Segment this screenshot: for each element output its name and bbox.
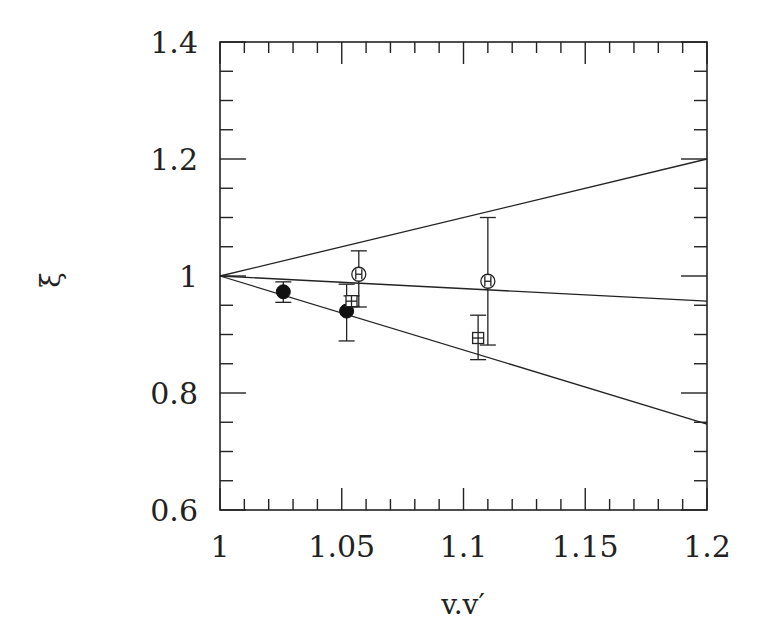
axis-ticks: [220, 42, 707, 510]
x-tick-label: 1.15: [552, 529, 619, 564]
open-circles-point: [480, 218, 496, 346]
x-tick-label: 1: [210, 529, 229, 564]
open-squares-point: [343, 296, 359, 307]
y-tick-label: 1.2: [150, 142, 198, 177]
y-tick-label: 1.4: [150, 25, 198, 60]
x-tick-label: 1.05: [308, 529, 375, 564]
y-tick-label: 0.6: [150, 493, 198, 528]
middle-line: [220, 276, 707, 301]
lower-bound-line: [220, 276, 707, 424]
filled-circles-point: [339, 284, 355, 341]
filled-circle-marker: [276, 285, 290, 299]
x-axis-title: v.v′: [440, 588, 485, 621]
plot-border: [220, 42, 707, 510]
y-axis-title: ξ: [34, 272, 67, 287]
y-tick-label: 1: [179, 259, 198, 294]
plot-frame: [220, 42, 707, 510]
chart-canvas: 11.051.11.151.2 0.60.811.21.4 v.v′ ξ: [0, 0, 772, 644]
reference-lines: [220, 159, 707, 424]
y-tick-label: 0.8: [150, 376, 198, 411]
filled-circles-point: [275, 282, 291, 302]
y-tick-labels: 0.60.811.21.4: [150, 25, 198, 528]
x-tick-label: 1.1: [440, 529, 488, 564]
x-tick-label: 1.2: [683, 529, 731, 564]
x-tick-labels: 11.051.11.151.2: [210, 529, 730, 564]
upper-bound-line: [220, 159, 707, 276]
